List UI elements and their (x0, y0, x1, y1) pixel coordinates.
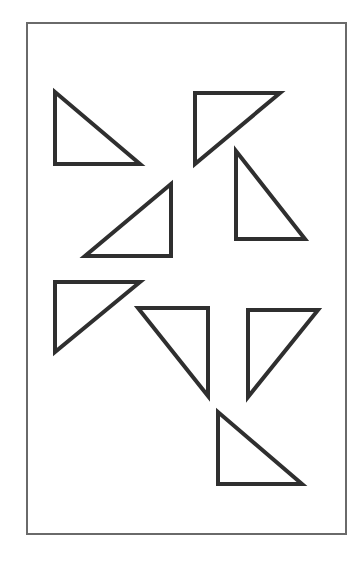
triangle-figure (0, 0, 362, 569)
figure-frame (27, 23, 346, 534)
